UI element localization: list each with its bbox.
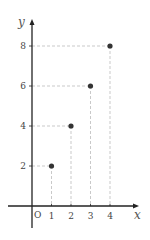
origin-label: O bbox=[34, 210, 41, 220]
data-point bbox=[88, 83, 93, 88]
axes bbox=[8, 19, 139, 228]
data-point bbox=[49, 163, 54, 168]
tick-labels: 12342468 bbox=[20, 41, 113, 221]
y-tick-label: 8 bbox=[20, 41, 26, 51]
y-tick-label: 2 bbox=[20, 161, 26, 171]
y-axis-label: y bbox=[17, 15, 25, 29]
scatter-chart: 12342468 x y O bbox=[0, 0, 150, 240]
y-tick-label: 6 bbox=[20, 81, 26, 91]
y-tick-label: 4 bbox=[20, 121, 26, 131]
data-points bbox=[49, 43, 113, 168]
data-point bbox=[68, 123, 73, 128]
x-tick-label: 2 bbox=[68, 211, 74, 221]
x-tick-label: 1 bbox=[49, 211, 55, 221]
y-axis-arrow-icon bbox=[30, 19, 35, 25]
x-tick-label: 4 bbox=[107, 211, 113, 221]
x-axis-label: x bbox=[134, 208, 141, 222]
x-tick-label: 3 bbox=[88, 211, 94, 221]
data-point bbox=[107, 43, 112, 48]
